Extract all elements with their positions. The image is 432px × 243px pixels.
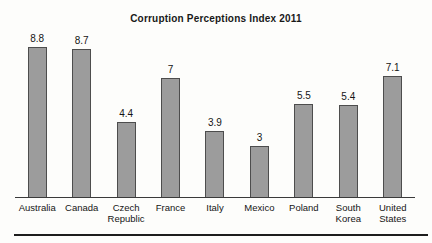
bar-column-italy: 3.9 xyxy=(193,117,237,197)
bar-column-mexico: 3 xyxy=(237,132,281,197)
category-labels: AustraliaCanadaCzechRepublicFranceItalyM… xyxy=(15,202,415,224)
bar-czech-republic xyxy=(117,122,136,197)
bar-value-label: 8.8 xyxy=(30,33,44,44)
bar-value-label: 5.4 xyxy=(341,91,355,102)
category-label-poland: Poland xyxy=(282,202,326,224)
bar-france xyxy=(161,78,180,197)
bar-italy xyxy=(205,131,224,197)
category-label-line: Canada xyxy=(59,202,103,213)
bar-south-korea xyxy=(339,105,358,197)
category-label-france: France xyxy=(148,202,192,224)
bar-poland xyxy=(294,104,313,198)
category-label-line: States xyxy=(371,213,415,224)
x-axis-line xyxy=(15,197,415,198)
bar-united-states xyxy=(383,76,402,197)
bar-canada xyxy=(72,49,91,197)
category-label-line: South xyxy=(326,202,370,213)
category-label-czech-republic: CzechRepublic xyxy=(104,202,148,224)
category-label-canada: Canada xyxy=(59,202,103,224)
category-label-line: Czech xyxy=(104,202,148,213)
bar-column-south-korea: 5.4 xyxy=(326,91,370,197)
bottom-rule xyxy=(14,234,428,236)
bar-value-label: 4.4 xyxy=(119,108,133,119)
bar-column-czech-republic: 4.4 xyxy=(104,108,148,197)
bar-value-label: 7.1 xyxy=(386,62,400,73)
bar-mexico xyxy=(250,146,269,197)
bar-australia xyxy=(28,47,47,197)
bar-column-canada: 8.7 xyxy=(59,35,103,197)
category-label-italy: Italy xyxy=(193,202,237,224)
category-label-line: United xyxy=(371,202,415,213)
category-label-line: France xyxy=(148,202,192,213)
category-label-line: Poland xyxy=(282,202,326,213)
bar-value-label: 7 xyxy=(168,64,174,75)
bar-value-label: 3 xyxy=(257,132,263,143)
chart-figure: Corruption Perceptions Index 2011 8.88.7… xyxy=(0,0,432,243)
category-label-united-states: UnitedStates xyxy=(371,202,415,224)
bar-column-poland: 5.5 xyxy=(282,90,326,198)
bar-column-australia: 8.8 xyxy=(15,33,59,197)
bar-value-label: 8.7 xyxy=(75,35,89,46)
category-label-line: Mexico xyxy=(237,202,281,213)
category-label-south-korea: SouthKorea xyxy=(326,202,370,224)
category-label-line: Korea xyxy=(326,213,370,224)
category-label-mexico: Mexico xyxy=(237,202,281,224)
category-label-line: Australia xyxy=(15,202,59,213)
bar-value-label: 3.9 xyxy=(208,117,222,128)
bar-value-label: 5.5 xyxy=(297,90,311,101)
category-label-australia: Australia xyxy=(15,202,59,224)
plot-area: 8.88.74.473.935.55.47.1 xyxy=(15,0,415,197)
category-label-line: Republic xyxy=(104,213,148,224)
category-label-line: Italy xyxy=(193,202,237,213)
bar-column-united-states: 7.1 xyxy=(371,62,415,197)
bar-column-france: 7 xyxy=(148,64,192,197)
